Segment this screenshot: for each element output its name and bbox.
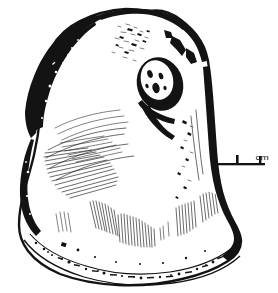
oyster-shell-drawing: cm [0,0,278,293]
figure-canvas: cm [0,0,278,293]
scale-bar-tick-0 [213,155,216,164]
scale-bar-tick-1 [236,155,239,164]
scale-bar-unit-label: cm [256,154,269,162]
